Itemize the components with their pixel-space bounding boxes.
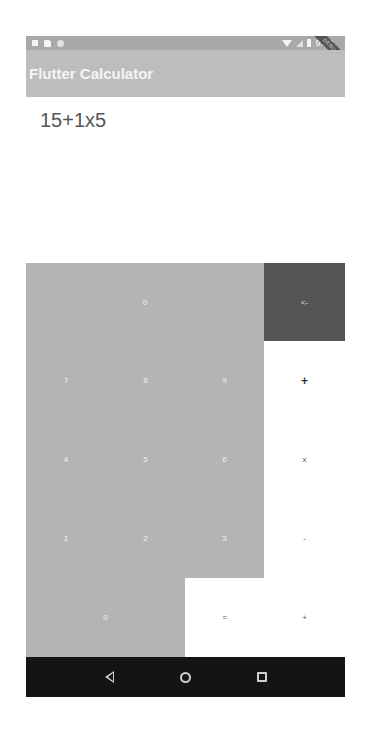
- recents-square-icon: [257, 672, 267, 682]
- subtract-button[interactable]: -: [264, 498, 345, 578]
- add-button-top[interactable]: +: [264, 341, 345, 420]
- nav-back-button[interactable]: [102, 670, 116, 684]
- battery-icon: [307, 39, 311, 47]
- key-7[interactable]: 7: [26, 341, 106, 420]
- expression-text: 15+1x5: [40, 109, 345, 132]
- nav-recents-button[interactable]: [255, 670, 269, 684]
- app-title: Flutter Calculator: [29, 65, 153, 82]
- status-bar: 9:02 DEBUG: [26, 36, 345, 50]
- app-bar: Flutter Calculator: [26, 50, 345, 97]
- key-8[interactable]: 8: [106, 341, 185, 420]
- navigation-bar: [26, 657, 345, 697]
- nav-home-button[interactable]: [178, 670, 192, 684]
- result-key[interactable]: 0: [26, 263, 264, 341]
- back-triangle-icon: [105, 671, 114, 683]
- key-9[interactable]: 9: [185, 341, 264, 420]
- phone-screen: 9:02 DEBUG Flutter Calculator 15+1x5 0 <…: [26, 36, 345, 697]
- key-6[interactable]: 6: [185, 420, 264, 498]
- add-button[interactable]: +: [264, 578, 345, 657]
- key-4[interactable]: 4: [26, 420, 106, 498]
- keypad: 0 <- 7 8 9 + 4 5 6 x 1 2 3 - 0 = +: [26, 263, 345, 657]
- key-5[interactable]: 5: [106, 420, 185, 498]
- sim-card-icon: [44, 40, 51, 47]
- sync-icon: [57, 40, 64, 47]
- equals-button[interactable]: =: [185, 578, 264, 657]
- backspace-button[interactable]: <-: [264, 263, 345, 341]
- notification-icon: [32, 40, 38, 46]
- key-1[interactable]: 1: [26, 498, 106, 578]
- calculator-display: 15+1x5: [26, 97, 345, 263]
- key-3[interactable]: 3: [185, 498, 264, 578]
- multiply-button[interactable]: x: [264, 420, 345, 498]
- home-circle-icon: [180, 672, 191, 683]
- key-2[interactable]: 2: [106, 498, 185, 578]
- wifi-icon: [282, 40, 292, 47]
- key-0[interactable]: 0: [26, 578, 185, 657]
- status-left-icons: [32, 40, 64, 47]
- cellular-signal-icon: [296, 40, 303, 47]
